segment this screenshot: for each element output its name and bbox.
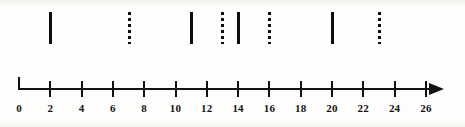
axis-arrow-right-icon	[429, 83, 444, 95]
axis-tick-label-16: 16	[264, 103, 275, 114]
axis-tick-10	[175, 81, 177, 97]
value-mark-dashed-23	[378, 12, 381, 44]
axis-tick-4	[81, 81, 83, 97]
axis-tick-0	[18, 77, 20, 90]
axis-tick-16	[268, 81, 270, 97]
value-mark-solid-2	[49, 12, 52, 44]
axis-tick-8	[143, 81, 145, 97]
axis-tick-label-14: 14	[232, 103, 243, 114]
axis-tick-label-6: 6	[110, 103, 116, 114]
axis-tick-26	[425, 81, 427, 97]
axis-tick-label-24: 24	[389, 103, 400, 114]
value-mark-dashed-13	[221, 12, 224, 44]
axis-tick-label-18: 18	[295, 103, 306, 114]
axis-tick-label-0: 0	[16, 103, 22, 114]
paper-tint-top	[0, 0, 465, 7]
value-mark-solid-20	[331, 12, 334, 44]
value-mark-dashed-16	[268, 12, 271, 44]
value-mark-solid-14	[237, 12, 240, 44]
value-mark-dashed-7	[128, 12, 131, 44]
paper-tint-bottom	[0, 121, 465, 127]
axis-tick-12	[206, 81, 208, 97]
axis-tick-label-8: 8	[141, 103, 147, 114]
axis-tick-label-20: 20	[326, 103, 337, 114]
axis-tick-label-2: 2	[47, 103, 53, 114]
axis-tick-24	[394, 81, 396, 97]
axis-tick-label-10: 10	[170, 103, 181, 114]
axis-tick-label-12: 12	[201, 103, 212, 114]
value-mark-solid-11	[190, 12, 193, 44]
axis-tick-20	[331, 81, 333, 97]
axis-tick-6	[112, 81, 114, 97]
axis-tick-label-4: 4	[79, 103, 85, 114]
number-line-figure: 02468101214161820222426	[0, 0, 465, 127]
axis-tick-22	[362, 81, 364, 97]
axis-tick-label-22: 22	[358, 103, 369, 114]
axis-tick-2	[49, 81, 51, 97]
axis-tick-18	[300, 81, 302, 97]
axis-tick-label-26: 26	[420, 103, 431, 114]
axis-tick-14	[237, 81, 239, 97]
